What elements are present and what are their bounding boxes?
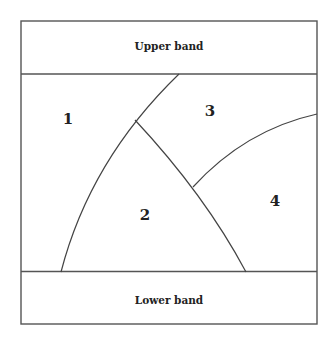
region-label-2: 2 xyxy=(140,206,150,224)
region-label-3: 3 xyxy=(205,102,215,120)
region-label-4: 4 xyxy=(270,192,280,210)
region-label-1: 1 xyxy=(63,110,73,128)
lower-band-label: Lower band xyxy=(135,294,204,306)
region-diagram: Upper band Lower band 1 2 3 4 xyxy=(0,0,333,347)
upper-band-label: Upper band xyxy=(135,40,204,52)
outer-frame xyxy=(21,21,317,324)
